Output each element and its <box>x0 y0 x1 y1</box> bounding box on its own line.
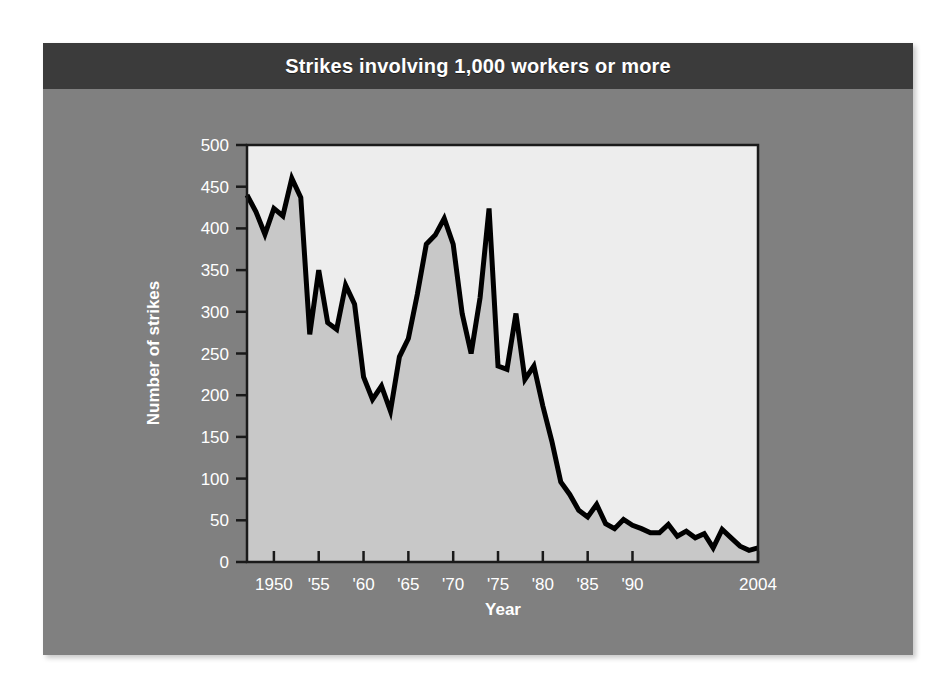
y-axis-title: Number of strikes <box>144 281 163 426</box>
figure-container: Strikes involving 1,000 workers or more … <box>0 0 946 693</box>
chart-card: Strikes involving 1,000 workers or more … <box>43 43 913 655</box>
plot-area-wrapper: 050100150200250300350400450500 1950'55'6… <box>43 43 913 655</box>
y-axis-tick-labels: 050100150200250300350400450500 <box>201 136 229 572</box>
x-tick-label: '80 <box>532 575 554 594</box>
x-tick-label: '65 <box>397 575 419 594</box>
x-axis-title: Year <box>485 600 521 619</box>
y-tick-label: 450 <box>201 178 229 197</box>
y-tick-label: 250 <box>201 345 229 364</box>
x-tick-label: '85 <box>577 575 599 594</box>
y-tick-label: 150 <box>201 428 229 447</box>
y-tick-label: 500 <box>201 136 229 155</box>
x-axis-tick-labels: 1950'55'60'65'70'75'80'85'902004 <box>255 575 777 594</box>
y-tick-label: 100 <box>201 470 229 489</box>
x-tick-label: '70 <box>442 575 464 594</box>
x-tick-label: '60 <box>352 575 374 594</box>
line-area-chart: 050100150200250300350400450500 1950'55'6… <box>43 43 913 655</box>
x-tick-label: 1950 <box>255 575 293 594</box>
y-axis-ticks <box>236 145 247 562</box>
y-tick-label: 0 <box>220 553 229 572</box>
y-tick-label: 300 <box>201 303 229 322</box>
y-tick-label: 350 <box>201 261 229 280</box>
x-tick-label: 2004 <box>739 575 777 594</box>
x-tick-label: '90 <box>621 575 643 594</box>
y-tick-label: 400 <box>201 219 229 238</box>
y-tick-label: 50 <box>210 511 229 530</box>
y-tick-label: 200 <box>201 386 229 405</box>
x-tick-label: '55 <box>308 575 330 594</box>
x-tick-label: '75 <box>487 575 509 594</box>
